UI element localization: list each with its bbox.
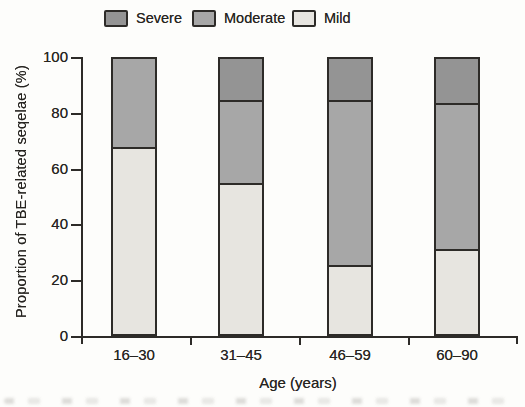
x-axis-end-tick [516,336,518,344]
y-tick-20 [71,280,81,282]
x-category-label: 60–90 [412,346,502,363]
y-tick-100 [71,57,81,59]
bar-segment-severe [436,59,478,103]
legend-label: Mild [324,9,351,27]
y-tick-label: 60 [36,160,68,178]
bar-segment-severe [329,59,371,100]
y-tick-label: 20 [36,271,68,289]
bar-46–59 [327,57,373,336]
legend-swatch-severe [104,10,128,27]
y-tick-40 [71,224,81,226]
bar-segment-moderate [436,103,478,249]
bar-16–30 [111,57,157,336]
legend-item: Moderate [192,9,285,27]
legend-item: Mild [292,9,351,27]
y-tick-label: 40 [36,215,68,233]
y-tick-label: 80 [36,104,68,122]
legend-label: Moderate [224,9,285,27]
legend-item: Severe [104,9,182,27]
bar-segment-moderate [113,59,155,147]
y-axis-title: Proportion of TBE-related seqelae (%) [13,42,33,342]
x-tick [408,338,410,345]
legend-label: Severe [136,9,182,27]
y-tick-60 [71,169,81,171]
scan-artifact-strip [4,398,521,404]
y-tick-label: 100 [36,48,68,66]
bar-segment-moderate [329,100,371,265]
bar-60–90 [434,57,480,336]
x-category-label: 46–59 [305,346,395,363]
bar-segment-mild [113,147,155,334]
x-axis-title: Age (years) [198,374,398,391]
y-tick-label: 0 [36,327,68,345]
x-tick [299,338,301,345]
legend-swatch-mild [292,10,316,27]
bar-segment-severe [220,59,262,100]
bar-segment-moderate [220,100,262,183]
y-axis-line [81,57,83,344]
x-category-label: 16–30 [89,346,179,363]
x-tick [190,338,192,345]
bar-31–45 [218,57,264,336]
bar-segment-mild [329,265,371,334]
bar-segment-mild [436,249,478,334]
tbe-sequelae-stacked-bar-figure: SevereModerateMild Proportion of TBE-rel… [0,0,525,407]
bar-segment-mild [220,183,262,334]
x-category-label: 31–45 [196,346,286,363]
x-axis-line [71,336,518,338]
legend-swatch-moderate [192,10,216,27]
y-tick-80 [71,113,81,115]
